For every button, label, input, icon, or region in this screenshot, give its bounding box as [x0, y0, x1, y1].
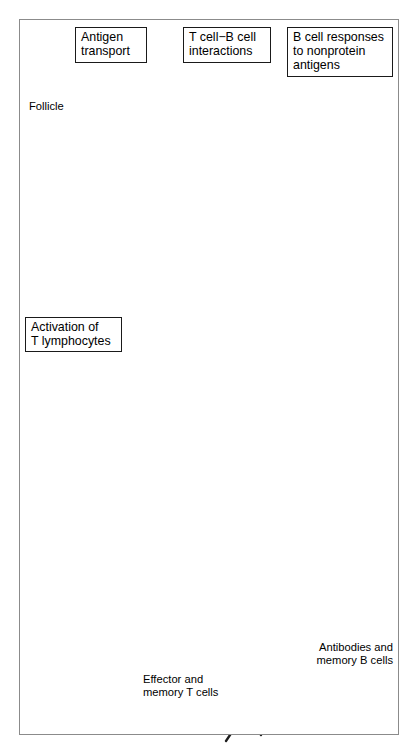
- callout-line: T lymphocytes: [31, 334, 117, 348]
- figure-canvas: Antigen transport T cell−B cell interact…: [0, 0, 418, 752]
- label-text: memory T cells: [143, 686, 218, 699]
- callout-line: T cell−B cell: [189, 30, 266, 44]
- label-antibodies-memory-b: Antibodies and memory B cells: [303, 641, 393, 667]
- callout-activation-t-lymphocytes: Activation of T lymphocytes: [25, 317, 122, 352]
- callout-line: Activation of: [31, 320, 117, 334]
- callout-line: transport: [81, 44, 142, 58]
- callout-line: interactions: [189, 44, 266, 58]
- callout-line: antigens: [293, 58, 388, 72]
- label-text: Effector and: [143, 673, 218, 686]
- callout-line: to nonprotein: [293, 44, 388, 58]
- callout-antigen-transport: Antigen transport: [75, 27, 147, 63]
- label-effector-memory-t: Effector and memory T cells: [143, 673, 218, 699]
- label-text: Antibodies and: [303, 641, 393, 654]
- callout-line: Antigen: [81, 30, 142, 44]
- label-follicle: Follicle: [29, 100, 64, 113]
- figure-frame: [19, 19, 399, 735]
- callout-t-b-interactions: T cell−B cell interactions: [183, 27, 271, 63]
- label-text: Follicle: [29, 100, 64, 113]
- label-text: memory B cells: [303, 654, 393, 667]
- callout-line: B cell responses: [293, 30, 388, 44]
- callout-b-cell-nonprotein: B cell responses to nonprotein antigens: [287, 27, 393, 77]
